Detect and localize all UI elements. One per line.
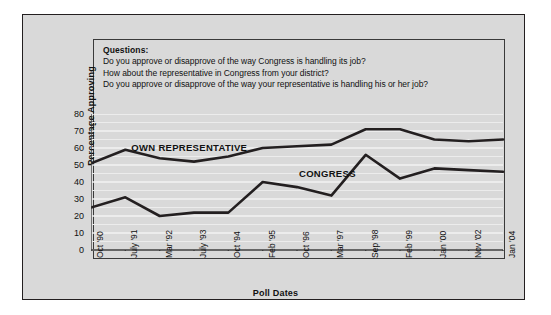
y-tick-label: 70 xyxy=(58,126,84,136)
x-tick-label: July '91 xyxy=(129,229,139,258)
question-line-3: Do you approve or disapprove of the way … xyxy=(103,79,503,91)
x-tick-label: Jan '00 xyxy=(438,231,448,258)
question-line-2: How about the representative in Congress… xyxy=(103,68,503,80)
y-tick-label: 80 xyxy=(58,109,84,119)
x-tick-label: Oct '96 xyxy=(301,231,311,258)
x-tick-label: Feb '95 xyxy=(267,230,277,258)
x-axis-title: Poll Dates xyxy=(0,288,551,298)
y-tick-label: 50 xyxy=(58,160,84,170)
questions-heading: Questions: xyxy=(103,45,503,56)
y-tick-label: 60 xyxy=(58,143,84,153)
x-tick-label: Oct '94 xyxy=(232,231,242,258)
x-tick-label: Oct '90 xyxy=(95,231,105,258)
series-label-own-representative: OWN REPRESENTATIVE xyxy=(131,142,247,153)
y-tick-label: 40 xyxy=(58,177,84,187)
x-tick-label: Mar '92 xyxy=(164,230,174,258)
series-label-congress: CONGRESS xyxy=(299,168,356,179)
y-tick-label: 20 xyxy=(58,211,84,221)
x-tick-label: July '93 xyxy=(198,229,208,258)
y-tick-label: 0 xyxy=(58,245,84,255)
x-tick-label: Mar '97 xyxy=(335,230,345,258)
series-line-congress xyxy=(91,155,503,216)
x-tick-label: Nov '02 xyxy=(473,229,483,258)
y-tick-label: 10 xyxy=(58,228,84,238)
chart-frame: Questions: Do you approve or disapprove … xyxy=(22,14,525,300)
plot-area xyxy=(91,114,523,250)
questions-block: Questions: Do you approve or disapprove … xyxy=(103,45,503,91)
x-tick-label: Sep '98 xyxy=(370,229,380,258)
question-line-1: Do you approve or disapprove of the way … xyxy=(103,56,503,68)
x-tick-label: Feb '99 xyxy=(404,230,414,258)
x-tick-label: Jan '04 xyxy=(507,231,517,258)
y-tick-label: 30 xyxy=(58,194,84,204)
